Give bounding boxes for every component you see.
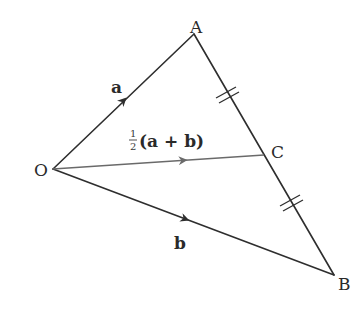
fraction-denominator: 2 bbox=[130, 141, 136, 152]
vector-label-oc: 1 2 (a + b) bbox=[129, 128, 204, 152]
point-label-b: B bbox=[338, 274, 351, 294]
point-label-a: A bbox=[189, 17, 203, 37]
point-label-o: O bbox=[34, 160, 48, 180]
edge-oc bbox=[53, 155, 264, 169]
point-label-c: C bbox=[271, 142, 284, 162]
equal-mark-ac-icon bbox=[216, 87, 239, 103]
edge-ob bbox=[53, 169, 334, 275]
edge-ab bbox=[194, 34, 334, 275]
vector-label-b: b bbox=[174, 233, 186, 253]
vector-label-a: a bbox=[111, 77, 122, 97]
sum-expression: (a + b) bbox=[139, 131, 204, 151]
fraction-numerator: 1 bbox=[130, 128, 136, 139]
vector-triangle-diagram: A O C B a b 1 2 (a + b) bbox=[0, 0, 362, 319]
